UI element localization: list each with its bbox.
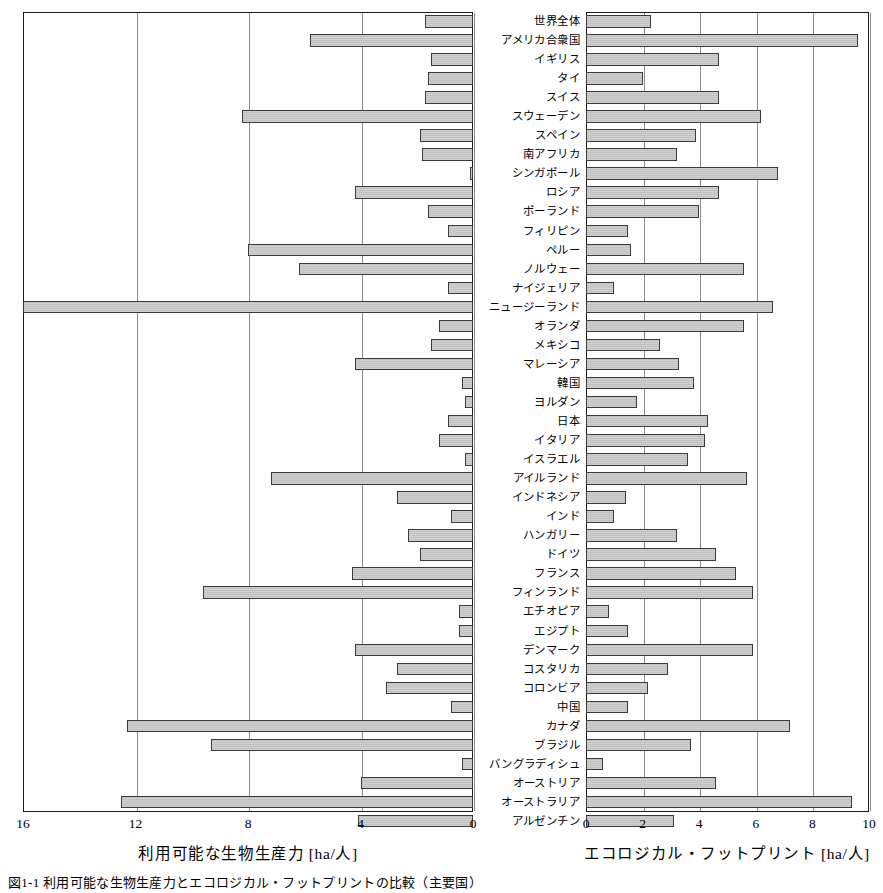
category-label: ポーランド [523, 202, 580, 221]
bar-biocapacity [465, 396, 473, 409]
bar-biocapacity [121, 796, 473, 809]
category-label: ブラジル [534, 736, 580, 755]
right-axis-tick: 6 [752, 816, 759, 832]
left-axis-tick: 12 [129, 816, 143, 832]
left-bar-row [23, 564, 473, 583]
right-axis-tick: 0 [583, 816, 590, 832]
category-label-row: イスラエル [473, 450, 586, 469]
left-bar-row [23, 50, 473, 69]
category-label-row: デンマーク [473, 641, 586, 660]
bar-footprint [586, 586, 753, 599]
category-label-row: メキシコ [473, 336, 586, 355]
right-bar-row [586, 317, 869, 336]
category-label-row: 中国 [473, 698, 586, 717]
category-label-row: オーストラリア [473, 793, 586, 812]
bar-biocapacity [448, 415, 473, 428]
category-label-row: アメリカ合衆国 [473, 31, 586, 50]
bar-biocapacity [459, 605, 473, 618]
category-label-row: フィリピン [473, 222, 586, 241]
right-bar-row [586, 50, 869, 69]
category-label-row: スペイン [473, 126, 586, 145]
category-label: メキシコ [534, 336, 580, 355]
left-axis-tick: 4 [357, 816, 364, 832]
left-bar-row [23, 260, 473, 279]
left-bar-row [23, 69, 473, 88]
bar-biocapacity [355, 186, 473, 199]
bar-biocapacity [355, 358, 473, 371]
category-label: インド [546, 507, 580, 526]
bar-biocapacity [448, 225, 473, 238]
category-label-row: スイス [473, 88, 586, 107]
bar-footprint [586, 529, 677, 542]
bar-footprint [586, 167, 778, 180]
bar-footprint [586, 701, 628, 714]
left-bar-row [23, 202, 473, 221]
category-label-row: ナイジェリア [473, 279, 586, 298]
category-label: アイルランド [513, 469, 580, 488]
bar-footprint [586, 434, 705, 447]
right-bar-row [586, 164, 869, 183]
bar-footprint [586, 720, 790, 733]
right-bar-row [586, 107, 869, 126]
left-bar-row [23, 698, 473, 717]
category-label: アメリカ合衆国 [501, 31, 580, 50]
right-bar-row [586, 202, 869, 221]
left-bar-row [23, 336, 473, 355]
bar-biocapacity [355, 644, 473, 657]
bar-biocapacity [310, 34, 473, 47]
category-label: ロシア [546, 183, 580, 202]
category-label: エジプト [534, 622, 580, 641]
right-bar-row [586, 69, 869, 88]
category-label: 中国 [557, 698, 580, 717]
bar-biocapacity [203, 586, 473, 599]
left-bar-row [23, 545, 473, 564]
category-label-row: ドイツ [473, 545, 586, 564]
category-label: スペイン [535, 126, 580, 145]
category-label: オーストラリア [501, 793, 580, 812]
left-bar-row [23, 660, 473, 679]
category-label-row: コロンビア [473, 679, 586, 698]
bar-biocapacity [361, 777, 474, 790]
bar-biocapacity [428, 205, 473, 218]
bar-biocapacity [459, 625, 473, 638]
category-label: スウェーデン [512, 107, 580, 126]
bar-footprint [586, 129, 696, 142]
bar-footprint [586, 625, 628, 638]
category-label: インドネシア [512, 488, 580, 507]
category-label: 韓国 [557, 374, 580, 393]
bar-biocapacity [428, 72, 473, 85]
bar-biocapacity [431, 53, 473, 66]
right-bar-row [586, 507, 869, 526]
category-label: マレーシア [523, 355, 580, 374]
bar-footprint [586, 15, 651, 28]
category-label-row: オーストリア [473, 774, 586, 793]
bar-footprint [586, 491, 626, 504]
category-label-row: ペルー [473, 241, 586, 260]
category-label: ヨルダン [534, 393, 580, 412]
category-label-row: ブラジル [473, 736, 586, 755]
left-bar-row [23, 126, 473, 145]
category-label-row: イギリス [473, 50, 586, 69]
right-bar-row [586, 431, 869, 450]
bar-biocapacity [211, 739, 473, 752]
category-label: ナイジェリア [512, 279, 580, 298]
bar-footprint [586, 758, 603, 771]
left-bar-row [23, 393, 473, 412]
right-bar-row [586, 88, 869, 107]
bar-biocapacity [425, 91, 473, 104]
right-bar-row [586, 183, 869, 202]
left-bar-row [23, 755, 473, 774]
left-bar-row [23, 793, 473, 812]
category-label-row: ポーランド [473, 202, 586, 221]
bar-footprint [586, 148, 677, 161]
left-bar-row [23, 145, 473, 164]
bar-footprint [586, 244, 631, 257]
category-label: フィンランド [512, 583, 580, 602]
category-label-row: オランダ [473, 317, 586, 336]
bar-biocapacity [23, 301, 473, 314]
left-bar-row [23, 355, 473, 374]
bar-footprint [586, 34, 858, 47]
left-axis-title: 利用可能な生物生産力 [ha/人] [138, 841, 357, 863]
right-bar-row [586, 793, 869, 812]
category-label-row: シンガポール [473, 164, 586, 183]
